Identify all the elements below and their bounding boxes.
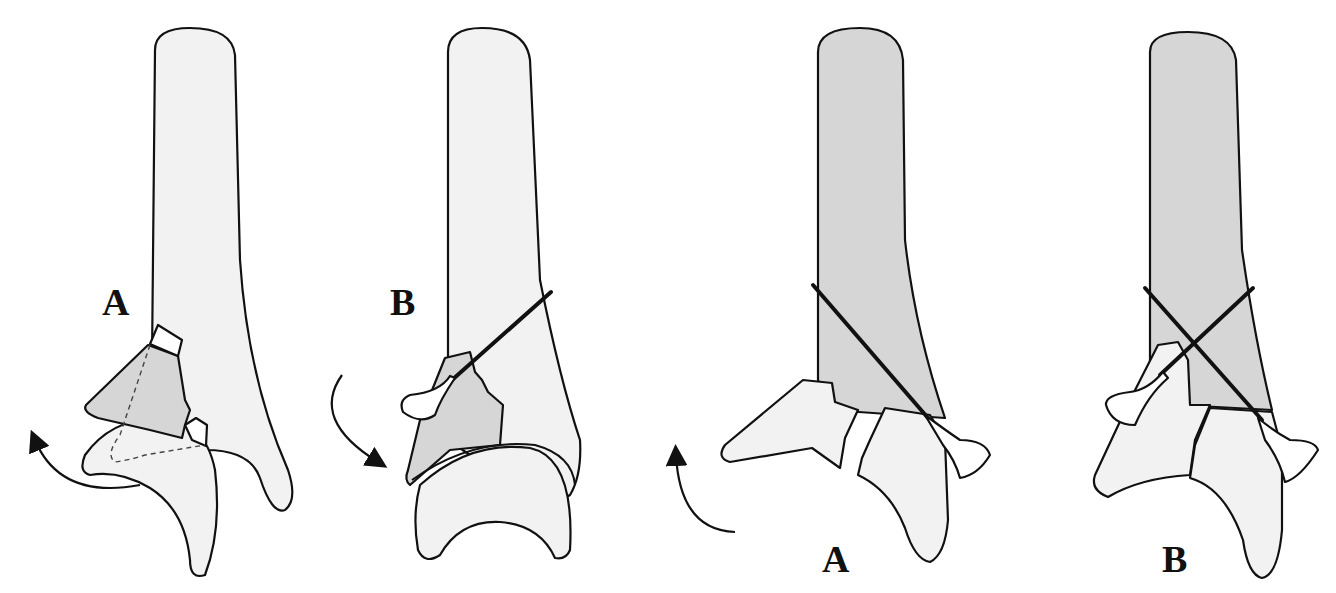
panel-2 xyxy=(332,28,581,559)
panel-3 xyxy=(676,28,990,562)
panel-1 xyxy=(35,28,292,576)
shaded-bone-fragment xyxy=(85,345,190,438)
rotation-arrow-icon xyxy=(332,375,378,462)
panel-1-label: A xyxy=(102,283,129,321)
fracture-fixation-diagram xyxy=(0,0,1336,593)
bone-shaft xyxy=(818,28,945,418)
rotation-arrow-icon xyxy=(676,455,735,532)
panel-3-label: A xyxy=(822,540,849,578)
panel-4-label: B xyxy=(1162,540,1187,578)
panel-4 xyxy=(1094,32,1318,578)
panel-2-label: B xyxy=(390,283,415,321)
